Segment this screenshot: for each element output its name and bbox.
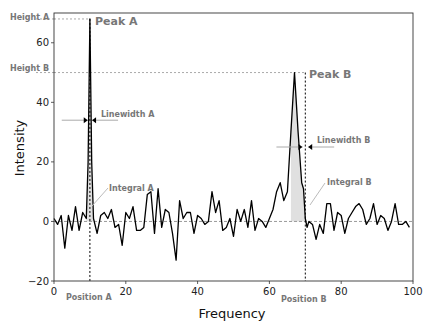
- arrowhead-icon: [92, 117, 96, 123]
- peak-b-label: Peak B: [309, 68, 351, 81]
- y-tick-label: 60: [36, 37, 49, 48]
- y-tick-label: −20: [28, 276, 49, 287]
- arrowhead-icon: [308, 144, 312, 150]
- x-tick-label: 80: [335, 286, 348, 297]
- height-b-label: Height B: [10, 64, 49, 73]
- integral-b-pointer: [310, 183, 325, 205]
- position-b-label: Position B: [281, 295, 327, 304]
- axis-ticks: 020406080100−200204060: [28, 37, 423, 297]
- peak-a-label: Peak A: [95, 15, 138, 28]
- x-tick-label: 0: [51, 286, 57, 297]
- spectrum-chart: 020406080100−200204060 Peak A Peak B Hei…: [0, 0, 430, 330]
- x-tick-label: 20: [119, 286, 132, 297]
- x-tick-label: 60: [263, 286, 276, 297]
- integral-a-pointer: [92, 188, 108, 206]
- y-tick-label: 20: [36, 156, 49, 167]
- y-axis-label: Intensity: [12, 119, 27, 176]
- guide-lines: [36, 19, 413, 281]
- position-a-label: Position A: [66, 293, 112, 302]
- arrowhead-icon: [298, 144, 302, 150]
- linewidth-b-label: Linewidth B: [317, 136, 370, 145]
- x-tick-label: 100: [403, 286, 422, 297]
- integral-b-label: Integral B: [327, 178, 372, 187]
- integral-a-label: Integral A: [109, 184, 155, 193]
- linewidth-a-label: Linewidth A: [101, 110, 155, 119]
- arrowhead-icon: [84, 117, 88, 123]
- plot-frame: [54, 13, 413, 281]
- x-tick-label: 40: [191, 286, 204, 297]
- y-tick-label: 0: [43, 216, 49, 227]
- x-axis-label: Frequency: [198, 306, 265, 321]
- height-a-label: Height A: [10, 13, 50, 22]
- y-tick-label: 40: [36, 97, 49, 108]
